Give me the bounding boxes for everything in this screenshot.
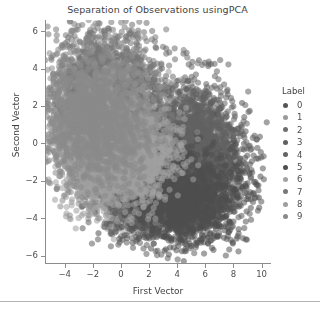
- legend-marker-icon: [283, 189, 288, 194]
- legend-item-2[interactable]: 2: [280, 124, 320, 136]
- y-tick-mark: [41, 181, 45, 182]
- legend: Label 0123456789: [280, 86, 320, 223]
- y-tick-mark: [41, 256, 45, 257]
- y-tick-label: 2: [33, 100, 38, 110]
- x-tick-label: 10: [256, 269, 267, 279]
- legend-marker-icon: [283, 103, 288, 108]
- x-tick-mark: [177, 264, 178, 268]
- x-tick-mark: [93, 264, 94, 268]
- legend-marker-icon: [283, 140, 288, 145]
- x-tick-label: 6: [203, 269, 208, 279]
- x-tick-label: 4: [174, 269, 179, 279]
- y-tick-mark: [41, 31, 45, 32]
- y-tick-label: 6: [33, 26, 38, 36]
- x-tick-label: −2: [87, 269, 100, 279]
- legend-item-label: 0: [297, 101, 302, 110]
- legend-marker-icon: [283, 177, 288, 182]
- legend-item-label: 4: [297, 151, 302, 160]
- legend-item-8[interactable]: 8: [280, 198, 320, 210]
- bottom-divider: [0, 301, 320, 302]
- x-axis-label: First Vector: [45, 286, 271, 296]
- x-tick-label: 8: [231, 269, 236, 279]
- y-tick-label: 4: [33, 63, 38, 73]
- scatter-plot-canvas: [45, 20, 270, 263]
- x-tick-mark: [121, 264, 122, 268]
- legend-item-3[interactable]: 3: [280, 136, 320, 148]
- y-tick-mark: [41, 106, 45, 107]
- legend-marker-icon: [283, 115, 288, 120]
- legend-item-5[interactable]: 5: [280, 161, 320, 173]
- legend-item-label: 6: [297, 175, 302, 184]
- legend-item-label: 3: [297, 138, 302, 147]
- legend-item-label: 5: [297, 163, 302, 172]
- y-axis-spine: [45, 20, 46, 264]
- x-tick-mark: [205, 264, 206, 268]
- y-tick-label: −4: [25, 213, 38, 223]
- legend-items: 0123456789: [280, 99, 320, 223]
- legend-marker-icon: [283, 202, 288, 207]
- legend-item-label: 2: [297, 126, 302, 135]
- legend-item-label: 9: [297, 212, 302, 221]
- page-title: Separation of Observations usingPCA: [45, 4, 270, 15]
- legend-marker-icon: [283, 152, 288, 157]
- x-tick-label: 2: [146, 269, 151, 279]
- x-tick-label: 0: [118, 269, 123, 279]
- legend-item-label: 7: [297, 188, 302, 197]
- legend-item-label: 1: [297, 113, 302, 122]
- legend-item-label: 8: [297, 200, 302, 209]
- legend-item-4[interactable]: 4: [280, 149, 320, 161]
- legend-item-1[interactable]: 1: [280, 111, 320, 123]
- x-tick-mark: [262, 264, 263, 268]
- x-axis-spine: [45, 263, 271, 264]
- legend-title: Label: [282, 86, 320, 96]
- y-tick-label: −2: [25, 175, 38, 185]
- y-tick-label: 0: [33, 138, 38, 148]
- plot-area: [45, 20, 270, 263]
- x-tick-mark: [233, 264, 234, 268]
- legend-marker-icon: [283, 127, 288, 132]
- legend-item-0[interactable]: 0: [280, 99, 320, 111]
- x-tick-mark: [149, 264, 150, 268]
- y-tick-mark: [41, 69, 45, 70]
- y-tick-label: −6: [25, 250, 38, 260]
- y-tick-mark: [41, 218, 45, 219]
- legend-marker-icon: [283, 214, 288, 219]
- y-axis-label: Second Vector: [11, 80, 21, 170]
- x-tick-label: −4: [58, 269, 71, 279]
- legend-item-6[interactable]: 6: [280, 173, 320, 185]
- y-tick-mark: [41, 143, 45, 144]
- chart-figure: Separation of Observations usingPCA −6−4…: [0, 0, 320, 309]
- legend-marker-icon: [283, 165, 288, 170]
- legend-item-9[interactable]: 9: [280, 211, 320, 223]
- legend-item-7[interactable]: 7: [280, 186, 320, 198]
- x-tick-mark: [65, 264, 66, 268]
